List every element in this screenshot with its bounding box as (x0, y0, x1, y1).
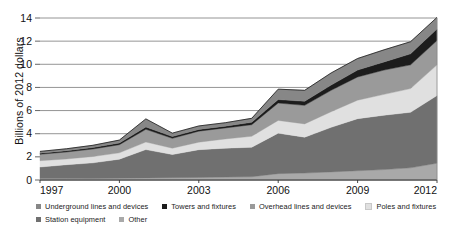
legend-label: Poles and fixtures (376, 202, 436, 211)
chart-legend: Underground lines and devicesTowers and … (36, 200, 448, 226)
y-tick-label: 2 (26, 150, 32, 162)
legend-swatch-icon (162, 204, 167, 209)
figure-root: 02468101214199720002003200620092012 Bill… (0, 0, 451, 237)
legend-item[interactable]: Other (119, 215, 147, 224)
legend-label: Underground lines and devices (45, 202, 148, 211)
x-tick-label: 2012 (414, 184, 438, 196)
x-tick-label: 2006 (267, 184, 291, 196)
legend-label: Station equipment (45, 215, 105, 224)
legend-item[interactable]: Underground lines and devices (36, 202, 148, 211)
x-tick-label: 2003 (187, 184, 211, 196)
legend-item[interactable]: Towers and fixtures (162, 202, 236, 211)
x-tick-label: 2009 (346, 184, 370, 196)
y-tick-label: 4 (26, 127, 32, 139)
legend-item[interactable]: Station equipment (36, 215, 105, 224)
legend-item[interactable]: Overhead lines and devices (250, 202, 352, 211)
legend-swatch-icon (36, 217, 41, 222)
y-tick-label: 0 (26, 174, 32, 186)
x-tick-label: 1997 (40, 184, 64, 196)
legend-row-1: Underground lines and devicesTowers and … (36, 200, 448, 213)
y-tick-label: 6 (26, 104, 32, 116)
y-tick-label: 8 (26, 81, 32, 93)
stacked-area-chart: 02468101214199720002003200620092012 (0, 0, 451, 196)
legend-swatch-icon (365, 203, 372, 210)
legend-label: Towers and fixtures (171, 202, 236, 211)
legend-swatch-icon (250, 204, 255, 209)
plot-area: 02468101214199720002003200620092012 Bill… (0, 0, 451, 196)
legend-row-2: Station equipmentOther (36, 213, 448, 226)
legend-label: Other (128, 215, 147, 224)
legend-item[interactable]: Poles and fixtures (365, 202, 436, 211)
y-axis-title: Billions of 2012 dollars (13, 11, 25, 171)
legend-swatch-icon (119, 217, 124, 222)
legend-label: Overhead lines and devices (259, 202, 352, 211)
x-tick-label: 2000 (108, 184, 132, 196)
legend-swatch-icon (36, 204, 41, 209)
